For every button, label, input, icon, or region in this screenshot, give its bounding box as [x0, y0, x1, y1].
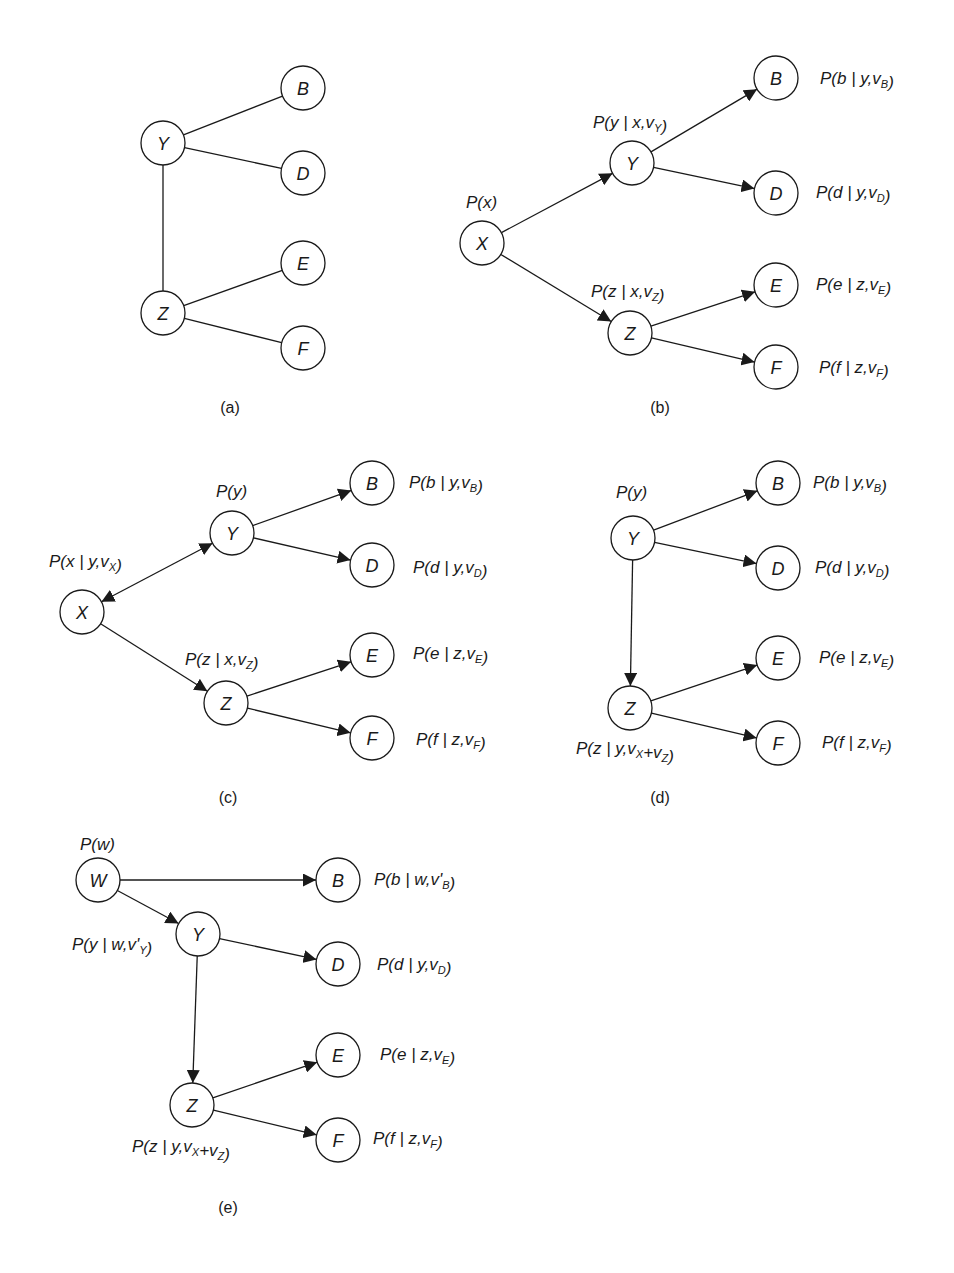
edge-z-e [247, 662, 351, 696]
node-label: Y [157, 134, 171, 154]
node-label: Z [220, 694, 233, 714]
node-label: D [297, 164, 310, 184]
probability-label-z: P(z | y,vX+vZ) [132, 1137, 230, 1164]
node-b: B [754, 56, 798, 100]
edge-z-f [651, 713, 756, 738]
probability-label-e: P(e | z,vE) [413, 644, 488, 667]
panel-caption-b: (b) [650, 399, 670, 416]
node-label: Z [186, 1096, 199, 1116]
node-label: B [297, 79, 309, 99]
node-d: D [316, 942, 360, 986]
node-y: Y [611, 516, 655, 560]
probability-label-x: P(x) [466, 193, 497, 212]
node-x: X [60, 590, 104, 634]
edge-x-y [501, 173, 612, 232]
edge-y-b [654, 491, 758, 530]
node-label: E [770, 276, 783, 296]
node-label: D [770, 184, 783, 204]
node-label: F [333, 1131, 345, 1151]
node-label: B [332, 871, 344, 891]
edge-z-e [651, 292, 755, 326]
probability-label-z: P(z | x,vZ) [591, 282, 665, 305]
node-label: Y [626, 154, 640, 174]
node-label: Y [192, 925, 206, 945]
node-d: D [281, 151, 325, 195]
node-label: X [475, 234, 489, 254]
edge-z-e [184, 270, 283, 305]
probability-label-f: P(f | z,vF) [819, 358, 889, 381]
node-label: X [75, 603, 89, 623]
panel-c: XYBDZEFP(x | y,vX)P(y)P(b | y,vB)P(d | y… [49, 461, 488, 806]
node-y: Y [610, 141, 654, 185]
node-b: B [316, 858, 360, 902]
node-label: F [298, 339, 310, 359]
probability-label-b: P(b | y,vB) [813, 473, 887, 496]
node-d: D [754, 171, 798, 215]
edge-y-d [220, 939, 317, 960]
node-b: B [350, 461, 394, 505]
probability-label-e: P(e | z,vE) [819, 648, 894, 671]
edge-z-f [651, 338, 754, 362]
edge-z-e [651, 665, 757, 701]
node-label: B [772, 474, 784, 494]
node-z: Z [170, 1083, 214, 1127]
node-z: Z [608, 686, 652, 730]
probability-label-f: P(f | z,vF) [416, 730, 486, 753]
node-label: B [366, 474, 378, 494]
edge-z-f [247, 708, 350, 733]
node-b: B [281, 66, 325, 110]
node-f: F [281, 326, 325, 370]
edge-y-b [253, 490, 352, 525]
node-z: Z [204, 681, 248, 725]
node-x: X [460, 221, 504, 265]
panel-caption-c: (c) [219, 789, 238, 806]
edge-y-b [183, 96, 282, 135]
node-d: D [350, 543, 394, 587]
edge-z-e [213, 1062, 317, 1098]
probability-label-e: P(e | z,vE) [816, 275, 891, 298]
edge-y-d [253, 538, 350, 560]
edge-y-z [193, 956, 197, 1083]
node-label: D [332, 955, 345, 975]
node-e: E [281, 241, 325, 285]
panel-caption-a: (a) [220, 399, 240, 416]
panel-d: YBDZEFP(y)P(b | y,vB)P(d | y,vD)P(z | y,… [576, 461, 894, 806]
node-f: F [350, 716, 394, 760]
node-e: E [756, 636, 800, 680]
node-label: D [772, 559, 785, 579]
probability-label-f: P(f | z,vF) [373, 1129, 443, 1152]
node-label: Z [624, 324, 637, 344]
probability-label-z: P(z | y,vX+vZ) [576, 739, 674, 766]
edge-z-f [184, 318, 281, 342]
node-label: B [770, 69, 782, 89]
node-label: E [772, 649, 785, 669]
edge-z-f [213, 1110, 316, 1135]
node-label: F [771, 358, 783, 378]
probability-label-z: P(z | x,vZ) [185, 650, 259, 673]
probability-label-d: P(d | y,vD) [377, 955, 451, 978]
probability-label-b: P(b | w,v'B) [374, 870, 455, 893]
edge-y-d [185, 148, 282, 169]
node-e: E [754, 263, 798, 307]
probability-label-b: P(b | y,vB) [820, 69, 894, 92]
panel-b: XYBDZEFP(x)P(y | x,vY)P(b | y,vB)P(d | y… [460, 56, 894, 416]
node-label: Z [624, 699, 637, 719]
node-label: Y [627, 529, 641, 549]
node-label: E [332, 1046, 345, 1066]
probability-label-w: P(w) [80, 835, 115, 854]
node-label: E [297, 254, 310, 274]
probability-label-d: P(d | y,vD) [815, 558, 889, 581]
panel-e: WBYDZEFP(w)P(b | w,v'B)P(y | w,v'Y)P(d |… [72, 835, 455, 1216]
probability-label-y: P(y | w,v'Y) [72, 935, 152, 958]
node-f: F [754, 345, 798, 389]
node-y: Y [210, 511, 254, 555]
probability-label-y: P(y) [216, 482, 247, 501]
probability-label-d: P(d | y,vD) [816, 183, 890, 206]
node-b: B [756, 461, 800, 505]
node-d: D [756, 546, 800, 590]
node-label: F [773, 734, 785, 754]
probability-label-b: P(b | y,vB) [409, 473, 483, 496]
node-z: Z [608, 311, 652, 355]
edge-y-z [630, 560, 632, 686]
probability-label-y: P(y | x,vY) [593, 113, 667, 136]
